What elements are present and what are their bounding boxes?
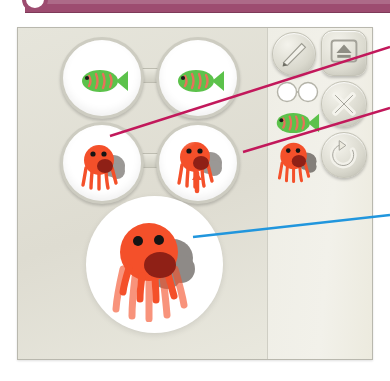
green-fish-icon: [274, 110, 320, 136]
orange-octopus-icon: [105, 214, 209, 322]
lens-bottom-left[interactable]: [60, 122, 144, 204]
pencil-button[interactable]: [272, 32, 316, 76]
octopus-thumbnail[interactable]: [272, 140, 324, 186]
glasses-thumbnail[interactable]: [275, 80, 321, 104]
close-button[interactable]: [321, 81, 367, 127]
lens-top-left[interactable]: [60, 37, 144, 119]
titlebar-sheen: [25, 0, 390, 4]
glasses-viewer-bottom[interactable]: [60, 122, 240, 200]
fish-thumbnail[interactable]: [274, 110, 320, 136]
upload-button[interactable]: [321, 30, 367, 76]
x-icon: [322, 82, 366, 126]
application-panel: [17, 27, 373, 360]
glasses-icon: [275, 80, 321, 104]
specimen-stage[interactable]: [18, 28, 270, 359]
lens-bottom-right[interactable]: [156, 122, 240, 204]
pencil-icon: [273, 33, 315, 75]
green-fish-icon: [79, 67, 129, 95]
orange-octopus-icon: [76, 141, 132, 193]
glasses-viewer-top[interactable]: [60, 37, 240, 115]
rotate-button[interactable]: [321, 132, 367, 178]
tool-panel: [267, 28, 372, 359]
upload-icon: [322, 31, 366, 75]
orange-octopus-icon: [272, 140, 324, 186]
magnified-specimen-circle[interactable]: [86, 196, 223, 333]
window-titlebar: [25, 0, 390, 13]
lens-top-right[interactable]: [156, 37, 240, 119]
screenshot-root: [0, 0, 390, 381]
green-fish-icon: [175, 67, 225, 95]
rotate-icon: [322, 133, 366, 177]
orange-octopus-icon: [172, 139, 228, 195]
